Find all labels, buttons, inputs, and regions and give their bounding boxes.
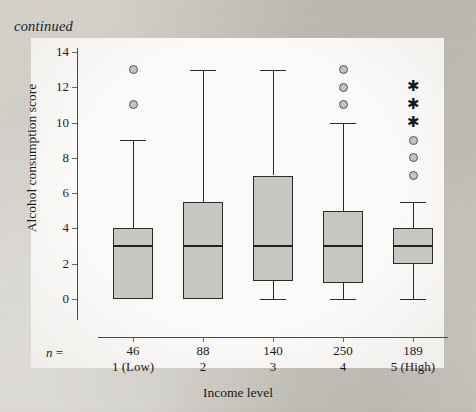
- continued-note: continued: [14, 18, 73, 35]
- figure-panel: [31, 38, 444, 368]
